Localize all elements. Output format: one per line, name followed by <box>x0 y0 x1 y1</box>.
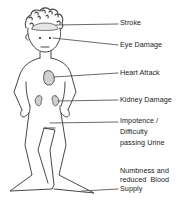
brain-icon <box>32 23 58 31</box>
label-heart-attack: Heart Attack <box>120 68 160 77</box>
label-line: Numbness and <box>120 166 184 175</box>
label-stroke: Stroke <box>120 18 141 27</box>
left-eye-icon <box>39 37 41 39</box>
label-impotence: Impotence / Difficulty passing Urine <box>120 116 184 147</box>
right-eye-icon <box>49 37 51 39</box>
label-line: Difficulty <box>120 127 184 136</box>
left-kidney-icon <box>35 96 42 106</box>
label-line: Supply <box>120 184 184 193</box>
label-eye-damage: Eye Damage <box>120 40 162 49</box>
label-line: passing Urine <box>120 138 184 147</box>
label-kidney-damage: Kidney Damage <box>120 95 172 104</box>
label-line: Impotence / <box>120 116 184 125</box>
label-line: reduced Blood <box>120 175 184 184</box>
torso <box>14 58 76 110</box>
heart-icon <box>44 71 55 85</box>
head <box>28 28 61 52</box>
label-numbness: Numbness and reduced Blood Supply <box>120 166 184 193</box>
legs <box>10 113 94 193</box>
